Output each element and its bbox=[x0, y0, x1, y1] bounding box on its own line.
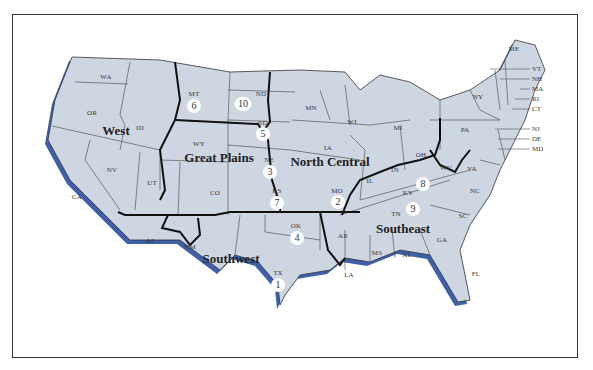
state-label-ne: NE bbox=[264, 156, 274, 164]
state-label-me: ME bbox=[509, 45, 520, 53]
state-label-mn: MN bbox=[305, 104, 317, 112]
state-label-co: CO bbox=[210, 189, 220, 197]
state-label-ar: AR bbox=[338, 232, 348, 240]
state-label-nv: NV bbox=[107, 166, 118, 174]
state-label-la: LA bbox=[344, 271, 354, 279]
state-label-ri: RI bbox=[532, 95, 539, 103]
state-label-sc: SC bbox=[459, 212, 468, 220]
state-label-or: OR bbox=[87, 109, 97, 117]
state-label-ms: MS bbox=[372, 249, 383, 257]
state-label-nd: ND bbox=[256, 90, 267, 98]
state-label-ia: IA bbox=[324, 144, 332, 152]
state-label-vt: VT bbox=[532, 65, 541, 73]
state-label-nc: NC bbox=[470, 187, 480, 195]
state-label-ct: CT bbox=[532, 105, 541, 113]
region-label-great-plains: Great Plains bbox=[184, 150, 253, 166]
state-label-mt: MT bbox=[189, 90, 200, 98]
state-label-ca: CA bbox=[72, 193, 82, 201]
state-label-az: AZ bbox=[145, 237, 155, 245]
state-label-ut: UT bbox=[147, 179, 157, 187]
state-label-wi: WI bbox=[347, 118, 356, 126]
state-label-ny: NY bbox=[473, 93, 484, 101]
state-label-ma: MA bbox=[532, 85, 543, 93]
state-label-wv: WV bbox=[440, 164, 452, 172]
state-label-de: DE bbox=[532, 135, 541, 143]
state-label-wy: WY bbox=[193, 140, 205, 148]
state-label-in: IN bbox=[391, 166, 399, 174]
rank-badge-tx: 1 bbox=[271, 278, 285, 292]
region-label-north-central: North Central bbox=[290, 154, 369, 170]
rank-badge-sd: 5 bbox=[256, 127, 270, 141]
state-label-al: AL bbox=[402, 251, 412, 259]
state-label-oh: OH bbox=[416, 151, 427, 159]
us-map bbox=[0, 0, 593, 370]
rank-badge-ok: 4 bbox=[290, 231, 304, 245]
rank-badge-ne: 3 bbox=[263, 165, 277, 179]
state-label-il: IL bbox=[366, 177, 373, 185]
rank-badge-tn: 9 bbox=[406, 202, 420, 216]
rank-badge-mo: 2 bbox=[331, 195, 345, 209]
state-label-ga: GA bbox=[437, 236, 448, 244]
state-label-tx: TX bbox=[273, 269, 283, 277]
state-label-tn: TN bbox=[391, 210, 401, 218]
rank-badge-ky: 8 bbox=[416, 177, 430, 191]
state-label-pa: PA bbox=[461, 126, 470, 134]
rank-badge-nd: 10 bbox=[235, 97, 252, 111]
state-label-id: ID bbox=[136, 124, 144, 132]
state-label-fl: FL bbox=[472, 270, 481, 278]
state-label-sd: SD bbox=[258, 119, 267, 127]
state-label-va: VA bbox=[467, 165, 477, 173]
state-label-ky: KY bbox=[403, 189, 414, 197]
state-label-md: MD bbox=[532, 145, 543, 153]
state-label-ks: KS bbox=[272, 187, 281, 195]
state-label-nm: NM bbox=[184, 243, 196, 251]
state-label-wa: WA bbox=[100, 73, 111, 81]
state-label-nh: NH bbox=[532, 75, 542, 83]
region-label-southwest: Southwest bbox=[202, 251, 259, 267]
region-label-southeast: Southeast bbox=[376, 221, 430, 237]
state-label-ok: OK bbox=[291, 222, 302, 230]
state-label-nj: NJ bbox=[532, 125, 540, 133]
rank-badge-mt: 6 bbox=[187, 99, 201, 113]
region-label-west: West bbox=[102, 123, 129, 139]
state-label-mi: MI bbox=[394, 124, 403, 132]
state-label-mo: MO bbox=[331, 187, 343, 195]
rank-badge-ks: 7 bbox=[270, 196, 284, 210]
